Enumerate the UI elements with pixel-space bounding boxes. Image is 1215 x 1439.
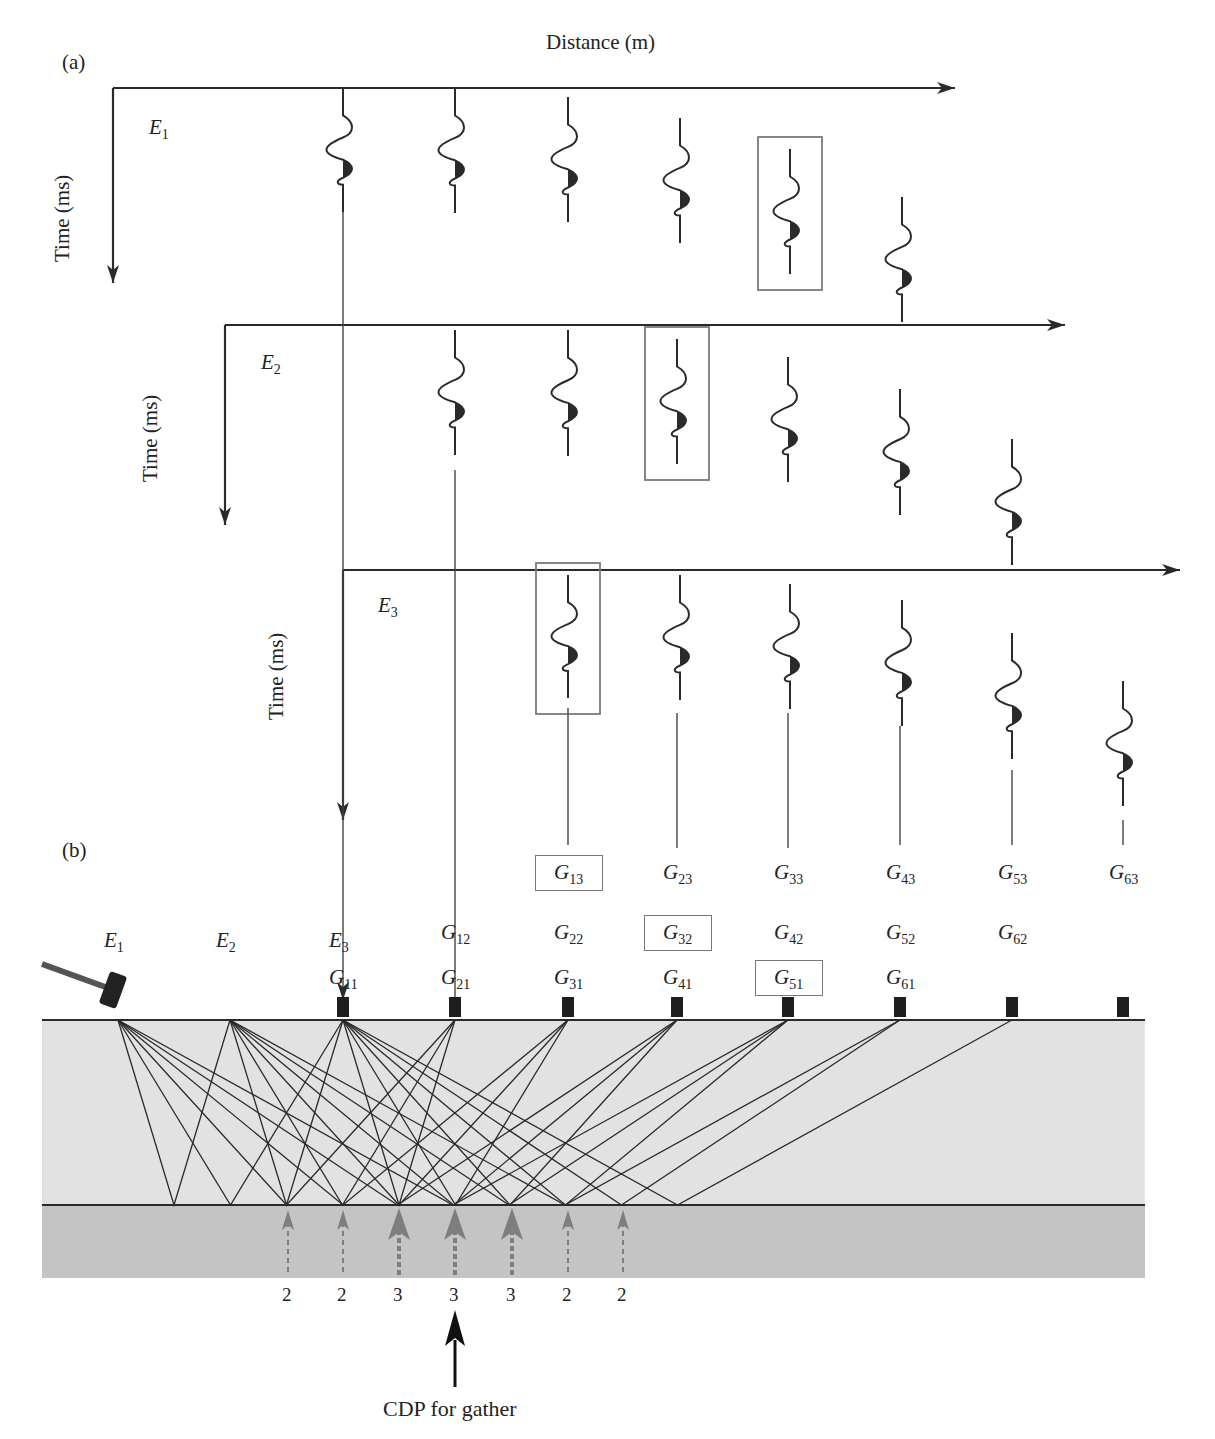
label-subscript: 22 — [569, 932, 583, 947]
label-base: G — [886, 965, 901, 989]
label-base: G — [886, 920, 901, 944]
geophone-label-g23: G23 — [663, 860, 692, 888]
geophone-icon — [671, 997, 683, 1017]
seismic-trace — [439, 88, 465, 213]
label-base: E — [104, 928, 117, 952]
geophone-icon — [562, 997, 574, 1017]
geophone-icon — [337, 997, 349, 1017]
label-subscript: 33 — [789, 872, 803, 887]
panel-a-label: (a) — [62, 50, 85, 75]
label-subscript: 31 — [569, 977, 583, 992]
label-subscript: 53 — [1013, 872, 1027, 887]
wavelet-peak-fill — [788, 429, 797, 447]
y-axis-label-e2: Time (ms) — [138, 395, 163, 482]
highlight-box — [535, 855, 603, 891]
label-subscript: 61 — [901, 977, 915, 992]
fold-count: 3 — [449, 1284, 459, 1306]
wavelet-peak-fill — [343, 160, 352, 178]
seismic-trace — [552, 575, 578, 698]
label-base: G — [663, 965, 678, 989]
seismic-trace — [552, 330, 578, 456]
seismic-trace — [996, 633, 1022, 759]
hammer-icon — [99, 971, 128, 1009]
label-base: E — [149, 115, 162, 139]
seismic-trace — [772, 357, 798, 482]
wavelet-peak-fill — [1123, 753, 1132, 771]
fold-count: 2 — [562, 1284, 572, 1306]
wavelet-peak-fill — [902, 673, 911, 691]
label-subscript: 3 — [342, 940, 349, 955]
geophone-label-g42: G42 — [774, 920, 803, 948]
geophone-icon — [1117, 997, 1129, 1017]
label-subscript: 3 — [391, 605, 398, 620]
wavelet-peak-fill — [455, 402, 464, 420]
fold-count: 2 — [617, 1284, 627, 1306]
wavelet-peak-fill — [677, 411, 686, 429]
wavelet-peak-fill — [902, 269, 911, 287]
geophone-label-g63: G63 — [1109, 860, 1138, 888]
label-subscript: 2 — [274, 362, 281, 377]
seismic-trace — [886, 197, 912, 322]
label-base: G — [441, 965, 456, 989]
cdp-label: CDP for gather — [383, 1396, 517, 1422]
label-base: E — [261, 350, 274, 374]
seismic-trace — [664, 575, 690, 700]
geophone-icon — [782, 997, 794, 1017]
shot-label-b-e2: E2 — [216, 928, 236, 956]
geophone-label-g21: G21 — [441, 965, 470, 993]
label-subscript: 11 — [344, 977, 357, 992]
lower-layer — [42, 1205, 1145, 1278]
highlight-box — [644, 915, 712, 951]
geophone-icon — [894, 997, 906, 1017]
geophone-icon — [1006, 997, 1018, 1017]
label-base: E — [329, 928, 342, 952]
fold-count: 3 — [506, 1284, 516, 1306]
seismic-trace — [774, 149, 800, 274]
shot-label-e2: E2 — [261, 350, 281, 378]
seismic-trace — [661, 339, 687, 464]
seismic-trace — [884, 389, 910, 515]
seismic-trace — [664, 118, 690, 243]
seismic-trace — [996, 439, 1022, 565]
seismic-trace — [439, 330, 465, 455]
seismic-trace — [327, 88, 353, 212]
cdp-diagram — [0, 0, 1215, 1439]
label-subscript: 21 — [456, 977, 470, 992]
geophone-label-g33: G33 — [774, 860, 803, 888]
label-subscript: 42 — [789, 932, 803, 947]
label-subscript: 23 — [678, 872, 692, 887]
fold-count: 3 — [393, 1284, 403, 1306]
label-subscript: 63 — [1124, 872, 1138, 887]
seismic-trace — [552, 97, 578, 222]
label-subscript: 1 — [117, 940, 124, 955]
label-base: E — [378, 593, 391, 617]
shot-label-b-e3: E3 — [329, 928, 349, 956]
geophone-icon — [449, 997, 461, 1017]
wavelet-peak-fill — [568, 403, 577, 421]
fold-count: 2 — [282, 1284, 292, 1306]
geophone-label-g22: G22 — [554, 920, 583, 948]
label-base: G — [998, 920, 1013, 944]
geophone-label-g43: G43 — [886, 860, 915, 888]
label-base: E — [216, 928, 229, 952]
geophone-label-g62: G62 — [998, 920, 1027, 948]
label-base: G — [441, 920, 456, 944]
shot-label-e1: E1 — [149, 115, 169, 143]
y-axis-label-e1: Time (ms) — [50, 175, 75, 262]
geophone-label-g11: G11 — [329, 965, 358, 993]
label-base: G — [774, 860, 789, 884]
wavelet-peak-fill — [568, 646, 577, 664]
geophone-label-g53: G53 — [998, 860, 1027, 888]
highlight-box — [755, 960, 823, 996]
label-base: G — [886, 860, 901, 884]
label-base: G — [1109, 860, 1124, 884]
label-subscript: 62 — [1013, 932, 1027, 947]
seismic-trace — [886, 600, 912, 726]
label-base: G — [329, 965, 344, 989]
seismic-trace — [774, 584, 800, 709]
geophone-label-g61: G61 — [886, 965, 915, 993]
wavelet-peak-fill — [680, 190, 689, 208]
hammer-handle — [42, 964, 108, 988]
y-axis-label-e3: Time (ms) — [264, 633, 289, 720]
label-base: G — [774, 920, 789, 944]
